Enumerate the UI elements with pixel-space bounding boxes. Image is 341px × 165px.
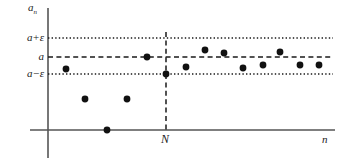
tick-label-a-minus-epsilon: a−ε bbox=[0, 68, 44, 79]
data-point-4 bbox=[124, 96, 131, 103]
reference-lines-group bbox=[48, 32, 333, 130]
tick-mid-a: a bbox=[39, 50, 45, 62]
data-point-5 bbox=[144, 54, 151, 61]
y-axis-label: an bbox=[28, 2, 37, 16]
data-points-group bbox=[63, 47, 323, 134]
data-point-13 bbox=[297, 62, 304, 69]
tick-label-a-plus-epsilon: a+ε bbox=[0, 32, 44, 43]
tick-label-a: a bbox=[0, 51, 44, 62]
y-axis-label-subscript: n bbox=[34, 8, 38, 16]
data-point-7 bbox=[183, 64, 190, 71]
data-point-11 bbox=[260, 62, 267, 69]
tick-lower-operator: − bbox=[32, 67, 39, 79]
data-point-3 bbox=[104, 127, 111, 134]
data-point-6 bbox=[163, 71, 170, 78]
tick-upper-operator: + bbox=[32, 31, 39, 43]
axes-group bbox=[30, 8, 335, 158]
limit-convergence-figure: an n N a+ε a a−ε bbox=[0, 0, 341, 165]
data-point-1 bbox=[63, 66, 70, 73]
tick-upper-epsilon: ε bbox=[40, 31, 44, 43]
threshold-label-N: N bbox=[161, 133, 169, 145]
tick-lower-epsilon: ε bbox=[40, 67, 44, 79]
data-point-14 bbox=[316, 62, 323, 69]
data-point-10 bbox=[240, 65, 247, 72]
data-point-9 bbox=[221, 50, 228, 57]
x-axis-label: n bbox=[322, 134, 328, 145]
data-point-2 bbox=[82, 96, 89, 103]
plot-canvas bbox=[0, 0, 341, 165]
data-point-8 bbox=[202, 47, 209, 54]
data-point-12 bbox=[277, 49, 284, 56]
